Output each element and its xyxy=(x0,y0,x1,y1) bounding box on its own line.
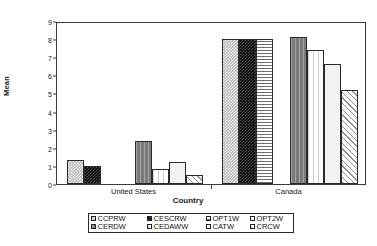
legend-label-catw: CATW xyxy=(213,223,235,231)
y-tick-label-6: 6 xyxy=(0,73,52,80)
bar-crcw-united-states xyxy=(186,175,203,184)
legend-swatch-catw xyxy=(206,224,211,229)
legend-label-cerdw: CERDW xyxy=(98,223,126,231)
legend-item-catw: CATW xyxy=(206,223,250,231)
y-tick-label-4: 4 xyxy=(0,109,52,116)
bar-cedaww-united-states xyxy=(152,169,169,184)
bar-catw-canada xyxy=(324,64,341,184)
bar-ccprw-canada xyxy=(222,39,239,184)
y-tick-label-3: 3 xyxy=(0,127,52,134)
bar-cedaww-canada xyxy=(307,50,324,184)
y-tick-label-5: 5 xyxy=(0,91,52,98)
bar-crcw-canada xyxy=(341,90,358,184)
bar-cerdw-canada xyxy=(290,37,307,184)
x-tick-mark-center xyxy=(211,185,212,189)
legend-label-cedaww: CEDAWW xyxy=(154,223,189,231)
y-tick-label-8: 8 xyxy=(0,37,52,44)
legend-swatch-crcw xyxy=(250,224,255,229)
legend-item-cedaww: CEDAWW xyxy=(147,223,206,231)
legend-item-cerdw: CERDW xyxy=(91,223,147,231)
y-tick-label-2: 2 xyxy=(0,145,52,152)
legend-swatch-cedaww xyxy=(147,224,152,229)
legend-row-2: CERDW CEDAWW CATW CRCW xyxy=(91,223,291,231)
x-group-label-canada: Canada xyxy=(275,187,301,196)
bar-opt1w-canada xyxy=(256,39,273,184)
x-axis-title: Country xyxy=(173,196,204,205)
bar-cescrw-united-states xyxy=(84,166,101,184)
x-group-label-united-states: United States xyxy=(111,187,156,196)
legend-item-crcw: CRCW xyxy=(250,223,280,231)
legend-swatch-cescrw xyxy=(147,216,152,221)
legend-label-crcw: CRCW xyxy=(257,223,280,231)
bar-cerdw-united-states xyxy=(135,141,152,184)
y-tick-label-1: 1 xyxy=(0,163,52,170)
bar-cescrw-canada xyxy=(239,39,256,184)
legend-swatch-opt1w xyxy=(206,216,211,221)
y-tick-label-0: 0 xyxy=(0,182,52,189)
legend: CCPRW CESCRW OPT1W OPT2W CERDW CEDA xyxy=(88,213,294,233)
legend-swatch-ccprw xyxy=(91,216,96,221)
bar-catw-united-states xyxy=(169,162,186,184)
legend-swatch-cerdw xyxy=(91,224,96,229)
bar-chart: Mean 0123456789 United StatesCanada Coun… xyxy=(0,0,377,246)
legend-swatch-opt2w xyxy=(250,216,255,221)
plot-area xyxy=(56,22,366,185)
y-tick-label-9: 9 xyxy=(0,19,52,26)
bar-ccprw-united-states xyxy=(67,160,84,184)
y-tick-label-7: 7 xyxy=(0,55,52,62)
